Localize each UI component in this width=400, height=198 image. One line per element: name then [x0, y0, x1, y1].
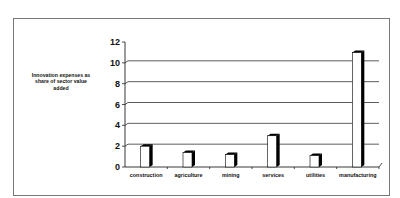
bar-manufacturing	[352, 52, 361, 167]
x-category-label: construction	[130, 172, 163, 178]
x-category-label: agriculture	[175, 172, 203, 178]
y-tick-label: 0	[115, 162, 120, 172]
y-tick-label: 2	[115, 141, 120, 151]
bar-side-mining	[234, 153, 237, 168]
bar-side-agriculture	[192, 150, 195, 167]
bar-mining	[225, 155, 234, 168]
y-tick-label: 6	[115, 100, 120, 110]
y-tick-label: 8	[115, 79, 120, 89]
y-tick-label: 10	[110, 58, 120, 68]
bar-services	[268, 136, 277, 167]
x-category-label: mining	[222, 172, 240, 178]
y-tick-label: 4	[115, 120, 120, 130]
x-category-label: services	[262, 172, 284, 178]
bar-agriculture	[183, 152, 192, 167]
bar-chart: 024681012constructionagricultureminingse…	[0, 0, 400, 198]
bar-side-services	[277, 134, 280, 167]
bar-side-manufacturing	[361, 50, 364, 167]
y-tick-label: 12	[110, 37, 120, 47]
x-category-label: utilities	[306, 172, 325, 178]
bar-construction	[141, 146, 150, 167]
x-category-label: manufacturing	[339, 172, 376, 178]
bar-utilities	[310, 156, 319, 167]
bar-side-utilities	[319, 154, 322, 167]
x-axis-tail	[379, 163, 382, 167]
bar-side-construction	[150, 144, 153, 167]
